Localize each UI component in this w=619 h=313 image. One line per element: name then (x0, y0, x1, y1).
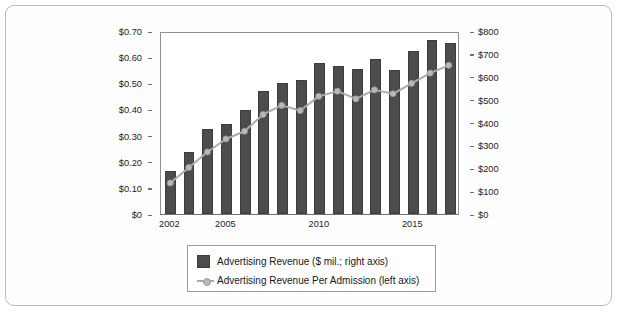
right-tick-label: $600 (478, 73, 499, 83)
right-tick-label: $0 (478, 210, 488, 220)
right-tick-label: $500 (478, 96, 499, 106)
line-swatch-icon (197, 275, 214, 286)
left-tick-mark (148, 215, 152, 216)
bar-2015 (408, 51, 419, 214)
right-tick-label: $700 (478, 50, 499, 60)
left-tick-label: $0.50 (119, 79, 142, 89)
bar-2016 (427, 40, 438, 214)
right-tick-mark (470, 32, 474, 33)
left-tick-label: $0.30 (119, 132, 142, 142)
left-tick-label: $0.40 (119, 105, 142, 115)
right-tick-label: $400 (478, 119, 499, 129)
bar-series (161, 33, 458, 214)
chart-figure: $0$0.10$0.20$0.30$0.40$0.50$0.60$0.70 $0… (6, 6, 613, 307)
left-tick-mark (148, 162, 152, 163)
right-tick-label: $300 (478, 141, 499, 151)
right-tick-label: $100 (478, 187, 499, 197)
right-tick-mark (470, 169, 474, 170)
bar-2007 (258, 91, 269, 214)
right-tick-mark (470, 100, 474, 101)
right-tick-mark (470, 192, 474, 193)
plot-area (160, 32, 459, 215)
bar-swatch-icon (197, 255, 210, 268)
right-tick-label: $200 (478, 164, 499, 174)
bar-2010 (314, 63, 325, 214)
left-tick-mark (148, 110, 152, 111)
left-tick-mark (148, 136, 152, 137)
bar-2004 (202, 129, 213, 214)
right-tick-label: $800 (478, 27, 499, 37)
legend-label-bar: Advertising Revenue ($ mil.; right axis) (217, 256, 388, 267)
x-axis: 2002200520102015 (160, 217, 459, 233)
right-tick-mark (470, 146, 474, 147)
bar-2002 (165, 171, 176, 214)
left-tick-mark (148, 32, 152, 33)
left-tick-label: $0.20 (119, 158, 142, 168)
bar-2014 (389, 70, 400, 214)
bar-2012 (352, 69, 363, 214)
left-tick-label: $0.60 (119, 53, 142, 63)
bar-2017 (445, 43, 456, 214)
chart-legend: Advertising Revenue ($ mil.; right axis)… (187, 245, 436, 292)
chart-card: $0$0.10$0.20$0.30$0.40$0.50$0.60$0.70 $0… (5, 5, 612, 306)
legend-label-line: Advertising Revenue Per Admission (left … (217, 275, 419, 286)
left-tick-label: $0.70 (119, 27, 142, 37)
x-tick-label-2002: 2002 (159, 219, 180, 229)
bar-2009 (296, 80, 307, 214)
bar-2005 (221, 124, 232, 214)
right-tick-mark (470, 123, 474, 124)
left-tick-label: $0.10 (119, 184, 142, 194)
legend-item-bar: Advertising Revenue ($ mil.; right axis) (197, 253, 435, 270)
bar-2011 (333, 66, 344, 214)
right-tick-mark (470, 77, 474, 78)
bar-2013 (370, 59, 381, 214)
bar-2008 (277, 83, 288, 214)
left-axis: $0$0.10$0.20$0.30$0.40$0.50$0.60$0.70 (98, 32, 154, 215)
x-tick-label-2010: 2010 (309, 219, 330, 229)
left-tick-label: $0 (132, 210, 142, 220)
x-tick-label-2015: 2015 (402, 219, 423, 229)
right-axis: $0$100$200$300$400$500$600$700$800 (465, 32, 521, 215)
x-tick-label-2005: 2005 (215, 219, 236, 229)
right-tick-mark (470, 215, 474, 216)
left-tick-mark (148, 84, 152, 85)
right-tick-mark (470, 54, 474, 55)
bar-2006 (240, 110, 251, 214)
legend-item-line: Advertising Revenue Per Admission (left … (197, 272, 435, 289)
left-tick-mark (148, 58, 152, 59)
left-tick-mark (148, 188, 152, 189)
bar-2003 (184, 152, 195, 214)
